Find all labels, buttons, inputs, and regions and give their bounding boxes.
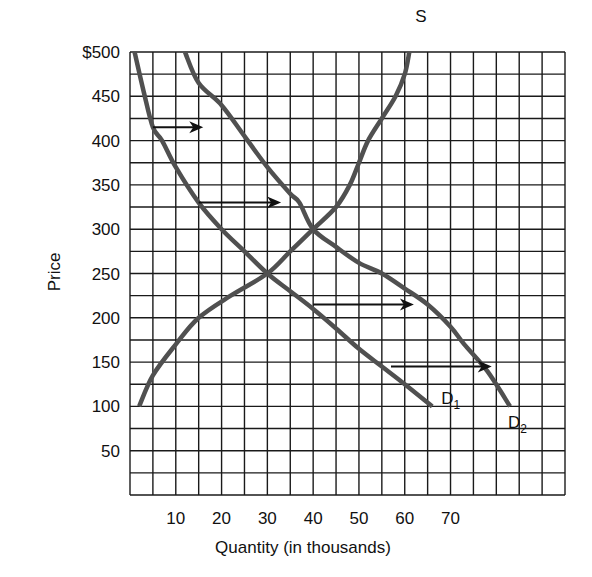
chart-grid (130, 52, 565, 495)
y-tick-label: 100 (92, 397, 120, 416)
label-demand-2: D2 (508, 413, 527, 436)
y-tick-label: 50 (101, 442, 120, 461)
y-tick-label: 250 (92, 265, 120, 284)
y-tick-label: 400 (92, 132, 120, 151)
shift-arrow-icon (153, 121, 203, 133)
y-tick-label: 300 (92, 220, 120, 239)
label-supply: S (415, 7, 426, 26)
x-axis-label: Quantity (in thousands) (215, 538, 391, 557)
x-tick-label: 20 (212, 509, 231, 528)
x-tick-label: 50 (349, 509, 368, 528)
y-tick-label: 150 (92, 353, 120, 372)
x-tick-label: 40 (304, 509, 323, 528)
curve-labels: SD1D2 (415, 7, 527, 436)
shift-arrows (153, 121, 492, 372)
y-axis-ticks: 50100150200250300350400450$500 (82, 43, 120, 461)
x-tick-label: 60 (395, 509, 414, 528)
supply-demand-chart: 50100150200250300350400450$500 102030405… (0, 0, 592, 577)
y-tick-label: 350 (92, 176, 120, 195)
x-tick-label: 10 (166, 509, 185, 528)
x-axis-ticks: 10203040506070 (166, 509, 460, 528)
x-tick-label: 70 (441, 509, 460, 528)
y-tick-label: 450 (92, 87, 120, 106)
x-tick-label: 30 (258, 509, 277, 528)
y-axis-label: Price (45, 253, 64, 292)
y-tick-label: $500 (82, 43, 120, 62)
shift-arrow-icon (313, 299, 414, 311)
y-tick-label: 200 (92, 309, 120, 328)
